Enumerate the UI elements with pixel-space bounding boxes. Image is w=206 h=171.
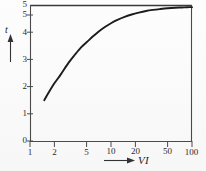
x-tick-label-2: 2 [49, 148, 59, 157]
y-axis-arrow-icon [8, 34, 14, 62]
y-tick-label-3: 3 [16, 55, 27, 64]
figure-container: 5 5 4 3 2 1 0 1 2 5 10 20 50 100 t VI [0, 0, 206, 171]
x-axis-title: VI [138, 154, 149, 166]
data-curve-t-of-vi [44, 7, 192, 100]
x-tick-label-5: 5 [82, 148, 92, 157]
y-tick-label-axis-cap: 5 [16, 0, 27, 9]
y-tick-label-2: 2 [16, 82, 27, 91]
y-tick-label-0: 0 [16, 136, 27, 145]
y-axis-title: t [5, 24, 8, 35]
axis-frame [30, 5, 192, 142]
x-tick-label-100: 100 [182, 148, 201, 157]
x-tick-label-1: 1 [25, 148, 35, 157]
x-axis-arrow-icon [104, 158, 135, 164]
x-tick-label-50: 50 [161, 147, 175, 156]
chart-plot-area [0, 0, 206, 171]
y-tick-label-4: 4 [16, 28, 27, 37]
y-tick-label-1: 1 [16, 109, 27, 118]
x-tick-label-10: 10 [104, 147, 118, 156]
y-tick-label-5: 5 [16, 10, 27, 19]
